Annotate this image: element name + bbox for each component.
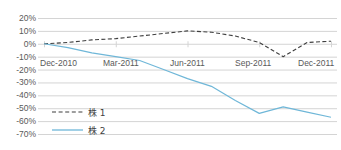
legend-swatch-2 [52,126,83,134]
legend-label: 株 1 [88,106,106,119]
y-tick-label: -30% [16,78,36,86]
y-axis-labels: 20%10%0%-10%-20%-30%-40%-50%-60%-70% [0,0,38,150]
legend-label: 株 2 [88,124,106,137]
y-tick-label: 10% [19,27,36,35]
legend-swatch-1 [52,108,83,116]
x-tick-label: Dec-2010 [40,59,77,68]
y-tick-label: -50% [16,104,36,112]
x-tick-label: Jun-2011 [170,59,205,68]
legend-item[interactable]: 株 2 [52,122,106,138]
y-tick-label: 20% [19,14,36,22]
x-tick-label: Sep-2011 [235,59,271,68]
x-tick-label: Mar-2011 [103,59,139,68]
y-tick-label: -20% [16,66,36,74]
y-tick-label: 0% [24,40,36,48]
y-tick-label: -40% [16,91,36,99]
y-tick-label: -10% [16,53,36,61]
chart-legend: 株 1株 2 [52,104,147,144]
legend-item[interactable]: 株 1 [52,104,106,120]
x-tick-label: Dec-2011 [298,59,334,68]
y-tick-label: -60% [16,117,36,125]
chart-container: 20%10%0%-10%-20%-30%-40%-50%-60%-70% Dec… [0,0,341,150]
y-tick-label: -70% [16,130,36,138]
